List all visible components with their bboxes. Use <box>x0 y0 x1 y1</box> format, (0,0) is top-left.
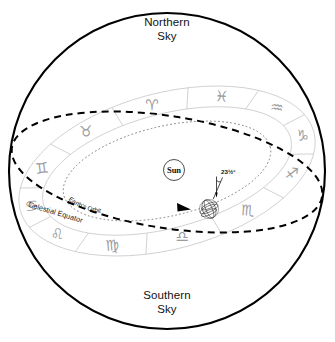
celestial-sphere-canvas: Northern Sky Southern Sky ♊♉♈♓♒♑♐♏♎♍♌♋ E… <box>0 0 335 342</box>
zodiac-band-divider <box>141 233 153 254</box>
zodiac-glyph-taurus: ♉ <box>79 122 94 141</box>
earth-tilt-arc <box>217 181 221 182</box>
southern-sky-label-line2: Sky <box>157 303 177 315</box>
zodiac-glyph-capricorn: ♑ <box>294 126 310 146</box>
zodiac-glyph-leo: ♌ <box>49 224 65 244</box>
earth-group: 23½° <box>199 168 236 220</box>
sun-label: Sun <box>167 165 181 175</box>
zodiac-glyph-aries: ♈ <box>145 96 159 114</box>
axial-tilt-label: 23½° <box>221 168 236 175</box>
northern-sky-label-line1: Northern <box>144 16 190 28</box>
southern-sky-label-line1: Southern <box>143 289 190 301</box>
earth-globe <box>199 198 219 221</box>
zodiac-band-divider <box>242 90 262 109</box>
zodiac-band-divider <box>72 233 92 252</box>
zodiac-glyph-sagittarius: ♐ <box>284 164 300 184</box>
zodiac-glyph-pisces: ♓ <box>214 87 229 106</box>
zodiac-band-divider <box>282 115 306 126</box>
zodiac-band-divider <box>50 140 70 159</box>
zodiac-band-divider <box>182 88 194 109</box>
zodiac-sign-virgo: ♍ <box>105 236 120 255</box>
zodiac-band-divider <box>264 183 284 202</box>
zodiac-sign-gemini: ♊ <box>34 159 50 179</box>
sun: Sun <box>164 160 185 181</box>
celestial-sphere-diagram: Northern Sky Southern Sky ♊♉♈♓♒♑♐♏♎♍♌♋ E… <box>0 0 335 342</box>
zodiac-sign-aquarius: ♒ <box>269 98 285 118</box>
earth-rotation-axis <box>213 178 222 200</box>
zodiac-sign-pisces: ♓ <box>214 87 229 106</box>
zodiac-band-divider <box>290 148 314 160</box>
zodiac-glyph-gemini: ♊ <box>34 159 50 179</box>
zodiac-glyph-scorpio: ♏ <box>240 201 255 220</box>
zodiac-glyph-virgo: ♍ <box>105 236 120 255</box>
zodiac-sign-aries: ♈ <box>145 96 159 114</box>
zodiac-sign-taurus: ♉ <box>79 122 94 141</box>
northern-sky-label-line2: Sky <box>157 30 177 42</box>
zodiac-sign-leo: ♌ <box>49 224 65 244</box>
zodiac-band-divider <box>112 106 123 127</box>
orbit-direction-arrow <box>177 203 191 212</box>
zodiac-sign-capricorn: ♑ <box>294 126 310 146</box>
zodiac-sign-sagittarius: ♐ <box>284 164 300 184</box>
zodiac-glyph-aquarius: ♒ <box>269 98 285 118</box>
earth-axis-arrow <box>215 192 217 197</box>
zodiac-sign-scorpio: ♏ <box>240 201 255 220</box>
